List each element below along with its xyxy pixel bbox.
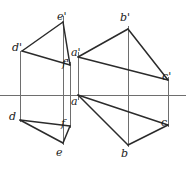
- edge-d-prime-e-prime: [22, 22, 63, 51]
- label-b: b: [121, 148, 128, 159]
- frontal-triangle-abc: [78, 29, 168, 80]
- label-f: f: [61, 118, 65, 129]
- edge-c-a: [78, 95, 168, 125]
- edge-d-e: [20, 120, 63, 143]
- label-e: e: [56, 147, 63, 158]
- edge-a-b: [78, 95, 128, 145]
- edge-a-prime-b-prime: [78, 29, 128, 57]
- drawing-canvas: [0, 0, 186, 170]
- label-f-prime: f': [62, 58, 69, 69]
- label-d: d: [9, 111, 16, 122]
- edge-c-prime-a-prime: [78, 57, 168, 80]
- label-c: c: [161, 117, 167, 128]
- label-c-prime: c': [162, 71, 171, 82]
- label-d-prime: d': [12, 42, 22, 53]
- label-b-prime: b': [120, 12, 130, 23]
- horizontal-triangle-abc: [78, 95, 168, 145]
- label-e-prime: e': [57, 11, 67, 22]
- label-a-prime: a': [71, 47, 81, 58]
- label-a: a: [71, 96, 78, 107]
- projection-drawing-figure: e' b' d' a' f' c' a d f c e b: [0, 0, 186, 170]
